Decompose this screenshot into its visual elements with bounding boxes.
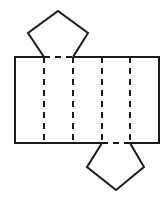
rectangle-faces — [15, 56, 159, 144]
top-pentagon-face — [28, 11, 88, 57]
pentagonal-prism-net — [0, 0, 168, 204]
bottom-pentagon-face — [87, 143, 144, 190]
fold-lines — [44, 57, 130, 143]
